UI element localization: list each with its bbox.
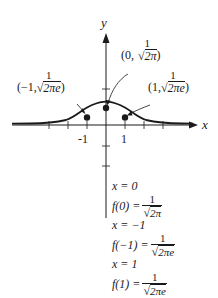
sqrt-denominator: √ 2π [138, 49, 157, 62]
sqrt-arg: 2π [145, 49, 157, 62]
eq-x1: x = 1 [112, 258, 175, 271]
radical-icon: √ [143, 285, 150, 297]
coord-close: ) [157, 49, 161, 62]
radical-icon: √ [152, 246, 159, 258]
numerator: 1 [148, 193, 156, 205]
sqrt-denominator: √ 2πe [142, 283, 167, 297]
label-right-inflection: (1, 1 √ 2πe ) [148, 69, 189, 94]
leader-arrows [77, 74, 150, 116]
numerator: 1 [151, 271, 159, 283]
coord-open: (−1, [17, 81, 37, 94]
eq-fneg1: f(−1) = 1 √ 2πe [112, 232, 175, 258]
fraction: 1 √ 2πe [37, 69, 61, 94]
normal-curve [12, 102, 193, 124]
y-axis-arrow-icon [103, 33, 110, 43]
sqrt-denominator: √ 2πe [161, 81, 185, 94]
coord-close: ) [61, 81, 65, 94]
numerator: 1 [145, 37, 151, 49]
numerator: 1 [159, 232, 167, 244]
sqrt-arg: 2πe [150, 284, 166, 297]
sqrt-denominator: √ 2π [142, 205, 162, 219]
label-left-inflection: (−1, 1 √ 2πe ) [17, 69, 65, 94]
sqrt-arg: 2πe [168, 81, 185, 94]
x-axis-arrow-icon [189, 122, 198, 129]
sqrt-arg: 2πe [158, 245, 174, 258]
sqrt-denominator: √ 2πe [151, 244, 176, 258]
equations: x = 0 f(0) = 1 √ 2π x = −1 f(−1) = 1 √ 2… [112, 180, 175, 297]
label-peak: (0, 1 √ 2π ) [121, 37, 161, 62]
fraction: 1 √ 2πe [161, 69, 185, 94]
y-axis-label: y [101, 16, 107, 29]
coord-open: (0, [121, 49, 134, 62]
eq-x0: x = 0 [112, 180, 175, 193]
x-tick-label-neg1: -1 [78, 133, 88, 145]
fraction: 1 √ 2πe [142, 271, 167, 297]
eq-f1: f(1) = 1 √ 2πe [112, 271, 175, 297]
coord-open: (1, [148, 81, 161, 94]
numerator: 1 [46, 69, 52, 81]
radical-icon: √ [161, 82, 168, 94]
x-axis-label: x [202, 118, 208, 131]
point-peak [103, 105, 109, 111]
fraction: 1 √ 2π [138, 37, 157, 62]
sqrt-denominator: √ 2πe [37, 81, 61, 94]
point-left-inflection [84, 114, 90, 120]
fraction: 1 √ 2π [142, 193, 162, 219]
fraction: 1 √ 2πe [151, 232, 176, 258]
x-tick-label-1: 1 [121, 133, 127, 145]
radical-icon: √ [138, 50, 145, 62]
eq-f0: f(0) = 1 √ 2π [112, 193, 175, 219]
radical-icon: √ [37, 82, 44, 94]
eq-xneg1: x = −1 [112, 219, 175, 232]
eq-lhs: f(−1) = [112, 238, 149, 253]
eq-lhs: f(1) = [112, 277, 140, 292]
sqrt-arg: 2πe [43, 81, 60, 94]
numerator: 1 [170, 69, 176, 81]
eq-lhs: f(0) = [112, 199, 140, 214]
coord-close: ) [185, 81, 189, 94]
sqrt-arg: 2π [150, 206, 161, 219]
